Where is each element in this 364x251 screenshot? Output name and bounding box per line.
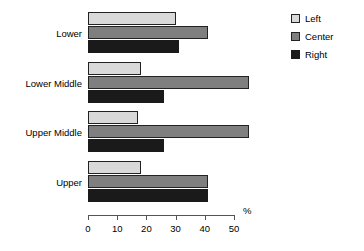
- bar-group: Upper Middle: [88, 111, 234, 155]
- bar-group: Upper: [88, 161, 234, 205]
- bar-left: [88, 62, 141, 75]
- bar-right: [88, 90, 164, 103]
- legend-item: Left: [291, 10, 361, 26]
- bar-right: [88, 189, 208, 202]
- legend-item: Center: [291, 28, 361, 44]
- bar-center: [88, 26, 208, 39]
- legend-swatch-right-icon: [291, 50, 300, 59]
- plot-area: Lower Lower Middle Upper Middle Upper: [88, 10, 234, 214]
- category-label: Lower: [0, 28, 82, 39]
- bar-group: Lower Middle: [88, 62, 234, 106]
- bar-center: [88, 175, 208, 188]
- legend-swatch-left-icon: [291, 14, 300, 23]
- x-axis-tick: [117, 215, 118, 220]
- x-axis-tick: [205, 215, 206, 220]
- x-axis-tick-label: 30: [170, 223, 181, 234]
- bar-center: [88, 125, 249, 138]
- category-label: Upper: [0, 177, 82, 188]
- x-axis-tick: [176, 215, 177, 220]
- bar-left: [88, 161, 141, 174]
- x-axis-tick: [234, 215, 235, 220]
- legend-item: Right: [291, 46, 361, 62]
- x-axis-tick-label: 20: [141, 223, 152, 234]
- bar-group: Lower: [88, 12, 234, 56]
- x-axis-tick-label: 10: [112, 223, 123, 234]
- x-axis-tick: [146, 215, 147, 220]
- legend-label: Left: [305, 13, 321, 24]
- x-axis-tick-label: 50: [229, 223, 240, 234]
- legend-label: Right: [305, 49, 327, 60]
- x-axis-tick: [88, 215, 89, 220]
- legend-swatch-center-icon: [291, 32, 300, 41]
- category-label: Lower Middle: [0, 78, 82, 89]
- x-axis-unit-label: %: [243, 205, 251, 216]
- bar-center: [88, 76, 249, 89]
- legend: Left Center Right: [291, 10, 361, 64]
- x-axis: 01020304050: [88, 215, 234, 216]
- x-axis-tick-label: 40: [200, 223, 211, 234]
- bar-left: [88, 111, 138, 124]
- x-axis-tick-label: 0: [85, 223, 90, 234]
- bar-right: [88, 40, 179, 53]
- bar-right: [88, 139, 164, 152]
- category-label: Upper Middle: [0, 127, 82, 138]
- bar-chart: Lower Lower Middle Upper Middle Upper: [0, 0, 364, 251]
- bar-left: [88, 12, 176, 25]
- legend-label: Center: [305, 31, 334, 42]
